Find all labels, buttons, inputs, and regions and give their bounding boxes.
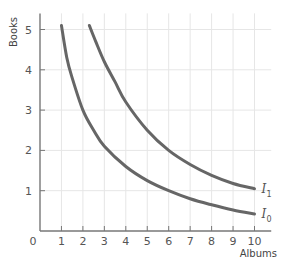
tick-labels: 01234567891012345 — [25, 24, 262, 249]
grid-lines — [40, 13, 271, 231]
x-tick-label: 0 — [30, 235, 37, 248]
y-axis-label: Books — [8, 17, 19, 47]
axes — [40, 13, 271, 231]
y-tick-label: 4 — [25, 64, 32, 77]
indifference-curve-chart: 01234567891012345 AlbumsBooksI0I1 — [0, 0, 285, 266]
curve-i1 — [89, 25, 254, 188]
x-tick-label: 8 — [208, 235, 215, 248]
y-tick-label: 2 — [25, 144, 32, 157]
y-tick-label: 5 — [25, 24, 32, 37]
x-tick-label: 3 — [101, 235, 108, 248]
x-tick-label: 4 — [122, 235, 129, 248]
x-tick-label: 1 — [58, 235, 65, 248]
x-tick-label: 2 — [79, 235, 86, 248]
x-tick-label: 9 — [230, 235, 237, 248]
x-tick-label: 10 — [248, 235, 262, 248]
curves — [61, 25, 254, 214]
x-axis-label: Albums — [240, 248, 277, 259]
curve-i0 — [61, 25, 254, 214]
labels: AlbumsBooksI0I1 — [8, 17, 277, 259]
x-tick-label: 7 — [187, 235, 194, 248]
x-tick-label: 6 — [165, 235, 172, 248]
y-tick-label: 1 — [25, 185, 32, 198]
y-tick-label: 3 — [25, 104, 32, 117]
curve-label-sub: 1 — [267, 190, 272, 199]
curve-label-sub: 0 — [267, 215, 272, 224]
x-tick-label: 5 — [144, 235, 151, 248]
